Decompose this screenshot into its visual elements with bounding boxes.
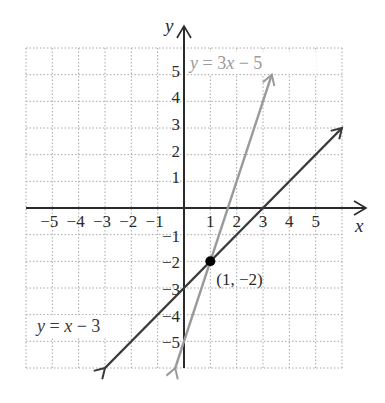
y-tick-label: 4 [172, 88, 181, 107]
series-lines [105, 75, 342, 368]
x-tick-label: 5 [311, 212, 320, 231]
intersection-point [205, 256, 215, 266]
line-y-3x-minus-5 [175, 75, 272, 368]
x-tick-label: −5 [40, 212, 58, 231]
annotations: y = 3x − 5y = x − 3(1, −2) [35, 53, 263, 336]
x-tick-label: −4 [67, 212, 86, 231]
x-axis-label: x [354, 215, 364, 236]
y-tick-label: 2 [172, 142, 181, 161]
equation-label-y-3x-minus-5: y = 3x − 5 [188, 53, 262, 73]
y-tick-label: −5 [162, 333, 180, 352]
x-tick-label: −2 [119, 212, 137, 231]
y-axis-label: y [163, 15, 174, 36]
x-tick-label: 2 [232, 212, 241, 231]
x-tick-label: 4 [285, 212, 294, 231]
x-tick-label: 1 [206, 212, 215, 231]
x-tick-label: −3 [93, 212, 111, 231]
y-tick-label: −2 [162, 253, 180, 272]
y-tick-label: −1 [162, 227, 180, 246]
y-tick-label: −4 [162, 307, 181, 326]
graph-plot: xy −5−4−3−2−11234554321−1−2−3−4−5 y = 3x… [0, 0, 385, 403]
line-y-x-minus-3 [105, 128, 342, 368]
y-tick-label: 3 [172, 115, 181, 134]
equation-label-y-x-minus-3: y = x − 3 [35, 316, 100, 336]
y-tick-label: 5 [172, 62, 181, 81]
intersection-point-label: (1, −2) [216, 270, 262, 289]
x-tick-label: 3 [259, 212, 268, 231]
y-tick-label: 1 [172, 168, 181, 187]
